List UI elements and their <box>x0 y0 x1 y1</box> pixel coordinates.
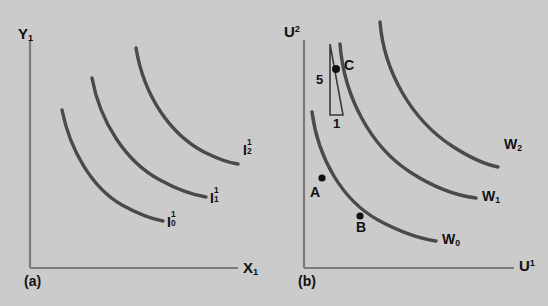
panel-b-caption: (b) <box>298 274 316 288</box>
curve-label-i2-sub: 2 <box>247 147 252 155</box>
curve-label-w2: W2 <box>504 137 522 153</box>
panel-b-x-axis-label-sup: 1 <box>530 258 535 268</box>
panel-b-y-axis-label-sup: 2 <box>295 24 300 34</box>
figure-container: Y1 X1 I10 I11 I12 (a) <box>0 0 548 306</box>
curve-label-i1-indices: 11 <box>214 189 223 203</box>
curve-label-i1: I11 <box>210 189 223 205</box>
panel-b-plot <box>274 0 548 306</box>
curve-label-w0: W0 <box>442 232 460 248</box>
slope-rise-label: 5 <box>316 73 323 86</box>
curve-label-i0: I10 <box>167 213 180 229</box>
curve-label-w1-sub: 1 <box>495 195 500 205</box>
indifference-curve-i0 <box>62 110 163 221</box>
panel-a-plot <box>0 0 274 306</box>
curve-label-w1-base: W <box>482 188 495 204</box>
curve-label-w2-sub: 2 <box>517 143 522 153</box>
curve-label-i0-indices: 10 <box>171 213 180 227</box>
indifference-curve-i2 <box>136 48 238 164</box>
point-label-b: B <box>356 220 366 234</box>
panel-a-caption: (a) <box>24 274 41 288</box>
indifference-curve-i1 <box>92 78 206 197</box>
curve-label-w0-base: W <box>442 231 455 247</box>
curve-label-w1: W1 <box>482 189 500 205</box>
panel-a-x-axis-label: X1 <box>243 260 258 278</box>
panel-a-x-axis-label-sub: 1 <box>253 267 258 277</box>
panel-a: Y1 X1 I10 I11 I12 (a) <box>0 0 274 306</box>
curve-label-i2: I12 <box>243 141 256 157</box>
point-marker-a <box>318 174 325 181</box>
curve-label-i0-sub: 0 <box>171 219 176 227</box>
panel-a-y-axis-label: Y1 <box>18 26 33 44</box>
curve-label-w2-base: W <box>504 136 517 152</box>
panel-b: U2 U1 W0 W1 W2 A B C 5 1 (b) <box>274 0 548 306</box>
welfare-curve-w1 <box>340 44 476 198</box>
panel-a-y-axis-label-base: Y <box>18 25 28 42</box>
panel-a-x-axis-label-base: X <box>243 259 253 276</box>
panel-b-x-axis-label: U1 <box>519 258 535 273</box>
panel-b-y-axis-label: U2 <box>284 24 300 39</box>
point-label-a: A <box>310 185 320 199</box>
curve-label-i2-indices: 12 <box>247 141 256 155</box>
curve-label-w0-sub: 0 <box>455 238 460 248</box>
point-label-c: C <box>344 58 354 72</box>
panel-a-y-axis-label-sub: 1 <box>28 33 33 43</box>
slope-run-label: 1 <box>333 117 340 130</box>
panel-b-y-axis-label-base: U <box>284 23 295 40</box>
point-marker-c <box>332 65 340 73</box>
welfare-curve-w2 <box>380 22 498 167</box>
curve-label-i1-sub: 1 <box>214 195 219 203</box>
panel-b-x-axis-label-base: U <box>519 257 530 274</box>
